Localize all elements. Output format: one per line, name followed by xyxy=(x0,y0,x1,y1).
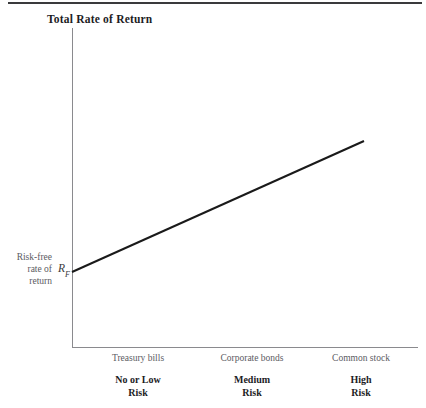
plot-area xyxy=(0,0,426,408)
x-category-risk-label: High Risk xyxy=(295,374,426,399)
x-category-asset-label: Common stock xyxy=(295,352,426,364)
rf-symbol: RF xyxy=(58,262,70,277)
rf-symbol-subscript: F xyxy=(65,270,70,279)
risk-free-label-line-3: return xyxy=(0,275,52,287)
risk-free-label-line-1: Risk-free xyxy=(0,251,52,263)
x-category-risk-line-2: Risk xyxy=(295,387,426,400)
return-line-chart xyxy=(0,0,426,408)
x-category-common-stock: Common stock High Risk xyxy=(295,352,426,399)
risk-free-rate-label: Risk-free rate of return xyxy=(0,251,52,287)
x-category-risk-label: No or Low Risk xyxy=(72,374,204,399)
x-category-risk-line-1: High xyxy=(295,374,426,387)
y-axis-line xyxy=(72,28,73,348)
risk-free-label-line-2: rate of xyxy=(0,263,52,275)
total-return-line xyxy=(72,141,364,272)
x-category-treasury-bills: Treasury bills No or Low Risk xyxy=(72,352,204,399)
x-axis-line xyxy=(72,347,418,348)
x-category-risk-line-2: Risk xyxy=(72,387,204,400)
top-rule xyxy=(8,2,422,4)
rf-symbol-base: R xyxy=(58,262,65,274)
chart-title: Total Rate of Return xyxy=(47,13,152,25)
x-category-asset-label: Treasury bills xyxy=(72,352,204,364)
x-category-risk-line-1: No or Low xyxy=(72,374,204,387)
